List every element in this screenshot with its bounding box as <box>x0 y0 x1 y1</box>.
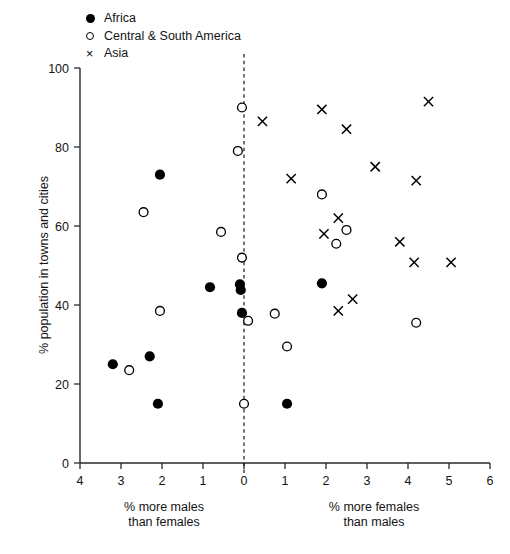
data-point-filled-circle <box>155 170 165 180</box>
x-axis-caption-right-line2: than males <box>290 515 458 530</box>
plot-area: 43210123456020406080100 <box>0 0 510 554</box>
x-axis-tick-label: 2 <box>323 474 330 488</box>
x-axis-tick-label: 3 <box>118 474 125 488</box>
data-point-open-circle <box>125 366 134 375</box>
data-point-open-circle <box>156 307 165 316</box>
x-axis-caption-right-line1: % more females <box>290 500 458 515</box>
data-point-open-circle <box>270 309 279 318</box>
x-axis-tick-label: 3 <box>364 474 371 488</box>
legend-label-africa: Africa <box>102 10 136 28</box>
data-point-open-circle <box>244 316 253 325</box>
legend-item-africa: Africa <box>86 10 241 28</box>
x-axis-tick-label: 5 <box>446 474 453 488</box>
data-point-cross <box>319 229 328 238</box>
data-point-cross <box>424 97 433 106</box>
y-axis-tick-label: 0 <box>62 457 69 471</box>
legend-label-asia: Asia <box>102 45 128 63</box>
data-point-open-circle <box>412 318 421 327</box>
data-point-cross <box>317 105 326 114</box>
legend-label-central-south-america: Central & South America <box>102 28 241 46</box>
x-axis-caption-left: % more males than females <box>84 500 244 530</box>
data-point-cross <box>334 306 343 315</box>
legend-item-central-south-america: Central & South America <box>86 28 241 46</box>
series-africa <box>108 170 327 409</box>
data-point-open-circle <box>238 253 247 262</box>
y-axis-tick-label: 60 <box>55 220 69 234</box>
data-points-layer <box>108 97 456 409</box>
y-axis-tick-label: 80 <box>55 141 69 155</box>
data-point-open-circle <box>283 342 292 351</box>
data-point-open-circle <box>240 399 249 408</box>
x-axis-caption-left-line1: % more males <box>84 500 244 515</box>
cross-icon: × <box>86 48 102 61</box>
y-axis-tick-label: 40 <box>55 299 69 313</box>
data-point-cross <box>446 258 455 267</box>
data-point-filled-circle <box>317 278 327 288</box>
data-point-filled-circle <box>205 282 215 292</box>
data-point-open-circle <box>318 190 327 199</box>
y-axis-tick-label: 100 <box>48 62 69 76</box>
x-axis-tick-label: 1 <box>200 474 207 488</box>
data-point-cross <box>287 174 296 183</box>
open-circle-icon <box>86 32 102 40</box>
data-point-filled-circle <box>145 351 155 361</box>
x-axis-tick-label: 4 <box>405 474 412 488</box>
data-point-filled-circle <box>236 285 246 295</box>
x-axis-tick-label: 1 <box>282 474 289 488</box>
x-axis-caption-right: % more females than males <box>290 500 458 530</box>
data-point-filled-circle <box>153 399 163 409</box>
data-point-cross <box>410 258 419 267</box>
filled-circle-icon <box>86 14 102 23</box>
data-point-cross <box>348 294 357 303</box>
x-axis-tick-label: 6 <box>487 474 494 488</box>
data-point-open-circle <box>139 208 148 217</box>
data-point-filled-circle <box>108 359 118 369</box>
data-point-open-circle <box>342 226 351 235</box>
scatter-chart-figure: Africa Central & South America × Asia % … <box>0 0 510 554</box>
data-point-cross <box>258 117 267 126</box>
data-point-open-circle <box>233 147 242 156</box>
data-point-cross <box>395 237 404 246</box>
axis-layer: 43210123456020406080100 <box>48 62 493 489</box>
y-axis-title: % population in towns and cities <box>37 135 51 395</box>
data-point-cross <box>412 176 421 185</box>
data-point-cross <box>371 162 380 171</box>
x-axis-tick-label: 2 <box>159 474 166 488</box>
series-central-south-america <box>125 103 421 408</box>
chart-legend: Africa Central & South America × Asia <box>86 10 241 63</box>
y-axis-tick-label: 20 <box>55 378 69 392</box>
x-axis-caption-left-line2: than females <box>84 515 244 530</box>
data-point-cross <box>342 125 351 134</box>
data-point-cross <box>334 214 343 223</box>
x-axis-tick-label: 0 <box>241 474 248 488</box>
data-point-filled-circle <box>282 399 292 409</box>
data-point-open-circle <box>238 103 247 112</box>
data-point-open-circle <box>332 239 341 248</box>
data-point-open-circle <box>217 228 226 237</box>
series-asia <box>258 97 456 316</box>
x-axis-tick-label: 4 <box>77 474 84 488</box>
legend-item-asia: × Asia <box>86 45 241 63</box>
